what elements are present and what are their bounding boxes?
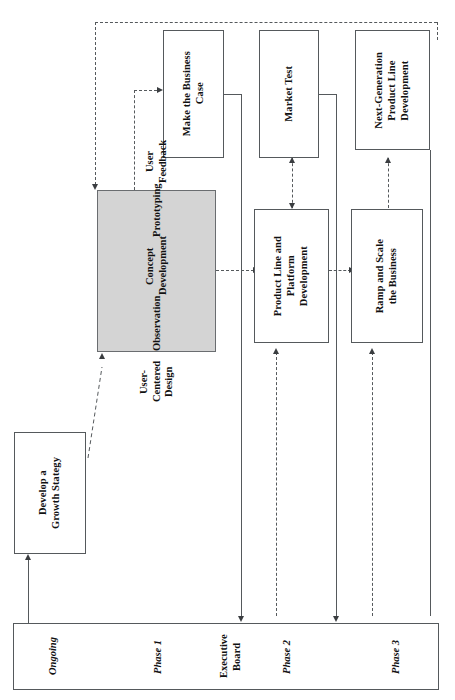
node-label: Market Test xyxy=(283,66,296,122)
connector-growth-strategy-to-ucd xyxy=(80,345,120,460)
arrowhead-phase3-gate-into-ramp-scale xyxy=(369,348,375,354)
connector-phase2-gate xyxy=(276,352,277,616)
arrowhead-into-ucd-from-growth-strategy xyxy=(99,353,105,359)
node-next-generation-product-line-development[interactable]: Next-Generation Product Line Development xyxy=(355,30,430,150)
node-label: Next-Generation Product Line Development xyxy=(373,52,411,129)
ucd-content: User-Centered Design Observation Concept… xyxy=(138,191,176,351)
phase-label-executive-board[interactable]: Executive Board xyxy=(218,628,243,685)
connector-ramp-scale-to-next-generation xyxy=(388,158,389,208)
diagram-canvas: Make the Business Case Market Test Next-… xyxy=(0,0,455,700)
phase-label-phase-2[interactable]: Phase 2 xyxy=(281,628,294,685)
connector-ucd-to-business-case-horizontal xyxy=(134,90,157,91)
ucd-item-observation: Observation xyxy=(150,295,163,350)
connector-product-line-market-test xyxy=(292,158,293,208)
node-develop-a-growth-strategy[interactable]: Develop a Growth Stategy xyxy=(14,432,86,554)
arrowhead-into-next-generation xyxy=(385,157,391,163)
phase-label-phase-1[interactable]: Phase 1 xyxy=(152,628,165,685)
node-label: Product Line and Platform Development xyxy=(272,236,310,316)
node-market-test[interactable]: Market Test xyxy=(259,30,319,158)
node-label: Ramp and Scale the Business xyxy=(374,239,400,313)
arrowhead-phase2-gate-into-product-line xyxy=(273,348,279,354)
ucd-item-concept-development: Concept Development xyxy=(144,237,169,296)
node-label: Develop a Growth Stategy xyxy=(37,457,63,529)
connector-product-line-to-ramp-scale xyxy=(329,270,351,271)
node-make-the-business-case[interactable]: Make the Business Case xyxy=(163,30,224,158)
ucd-title: User-Centered Design xyxy=(138,361,176,402)
phase-label-phase-3[interactable]: Phase 3 xyxy=(390,628,403,685)
node-product-line-and-platform-development[interactable]: Product Line and Platform Development xyxy=(254,209,329,343)
connector-market-test-to-phasebar-h xyxy=(319,94,337,95)
connector-ucd-to-product-line xyxy=(216,270,254,271)
phase-label-ongoing[interactable]: Ongoing xyxy=(47,628,60,685)
arrowhead-into-growth-strategy xyxy=(25,554,31,560)
connector-ucd-to-business-case-vertical xyxy=(134,90,135,190)
connector-next-generation-to-phasebar xyxy=(430,150,431,616)
node-ramp-and-scale-the-business[interactable]: Ramp and Scale the Business xyxy=(351,209,423,343)
ucd-item-user-feedback: User Feedback xyxy=(144,140,169,183)
connector-business-case-to-executive-board-h xyxy=(224,94,242,95)
node-label: Make the Business Case xyxy=(181,51,207,136)
arrowhead-market-test-to-phasebar xyxy=(333,616,339,622)
connector-next-generation-feedback-top xyxy=(95,22,437,23)
connector-phase3-gate xyxy=(372,352,373,616)
ucd-item-prototyping: Prototyping xyxy=(150,183,163,236)
connector-next-generation-feedback-left xyxy=(95,22,96,185)
connector-phasebar-to-growth-strategy xyxy=(28,560,29,623)
connector-next-generation-feedback-right xyxy=(437,22,438,40)
arrowhead-into-executive-board xyxy=(238,616,244,622)
connector-market-test-to-phasebar-v xyxy=(336,94,337,616)
connector-business-case-to-executive-board-v xyxy=(241,94,242,616)
node-user-centered-design[interactable]: User-Centered Design Observation Concept… xyxy=(97,190,216,352)
ucd-items: Observation Concept Development Prototyp… xyxy=(144,140,169,351)
